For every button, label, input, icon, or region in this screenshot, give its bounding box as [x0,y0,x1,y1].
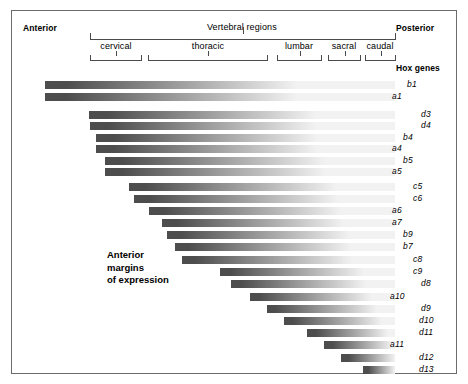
gene-label-d10: d10 [419,315,434,325]
gene-label-d9: d9 [421,303,431,313]
gene-label-a11: a11 [390,339,404,349]
gene-label-a5: a5 [392,166,402,176]
expression-bars [12,11,458,375]
gene-label-d3: d3 [421,109,431,119]
expression-bar-a7 [162,219,395,227]
expression-bar-c5 [129,183,395,191]
gene-label-d13: d13 [419,364,434,374]
figure-frame: Anterior Posterior Vertebral regions Hox… [11,10,457,374]
expression-bar-c6 [134,195,395,203]
gene-label-c6: c6 [413,193,422,203]
gene-label-b4: b4 [403,132,413,142]
gene-label-d8: d8 [421,278,431,288]
gene-label-c9: c9 [413,266,422,276]
expression-bar-b4 [96,134,395,142]
expression-bar-c9 [220,268,395,276]
expression-bar-d10 [284,317,395,325]
expression-bar-d8 [231,280,395,288]
gene-label-a7: a7 [392,217,402,227]
expression-bar-a11 [324,341,395,349]
gene-label-b5: b5 [403,155,413,165]
gene-label-a10: a10 [390,291,405,301]
gene-label-d11: d11 [419,327,433,337]
anterior-margins-annotation: Anterior margins of expression [107,249,169,287]
expression-bar-a6 [149,207,395,215]
gene-label-b7: b7 [403,241,413,251]
expression-bar-b5 [105,157,395,165]
expression-bar-a10 [250,293,395,301]
gene-label-b9: b9 [403,229,413,239]
expression-bar-c8 [182,256,395,264]
expression-bar-a5 [105,168,395,176]
expression-bar-d13 [363,366,395,374]
expression-bar-d12 [341,354,395,362]
expression-bar-b9 [167,231,395,239]
gene-label-a4: a4 [392,143,402,153]
expression-bar-d3 [89,111,395,119]
gene-label-c8: c8 [413,254,422,264]
expression-bar-d4 [90,122,395,130]
expression-bar-b7 [175,243,395,251]
hox-expression-figure: Anterior Posterior Vertebral regions Hox… [0,0,468,384]
gene-label-d4: d4 [421,120,431,130]
gene-label-a1: a1 [392,91,402,101]
expression-bar-d11 [307,329,395,337]
gene-label-b1: b1 [407,79,417,89]
expression-bar-d9 [267,305,395,313]
gene-label-d12: d12 [419,352,434,362]
gene-label-c5: c5 [413,181,422,191]
gene-label-a6: a6 [392,205,402,215]
expression-bar-b1 [45,81,395,89]
expression-bar-a1 [45,93,395,101]
expression-bar-a4 [96,145,395,153]
